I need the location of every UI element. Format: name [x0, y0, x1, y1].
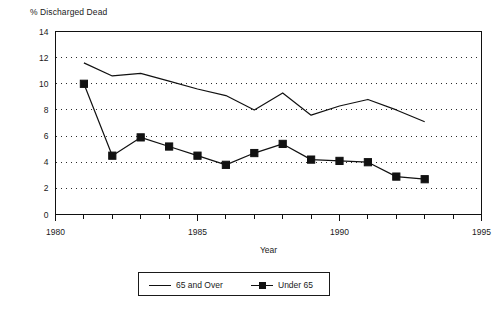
svg-text:0: 0: [44, 210, 49, 220]
svg-text:1990: 1990: [330, 227, 349, 237]
svg-text:1980: 1980: [46, 227, 65, 237]
gridlines: [56, 58, 482, 189]
plot-frame: [56, 32, 482, 215]
x-axis-ticks: [56, 215, 482, 221]
svg-text:12: 12: [39, 53, 49, 63]
svg-text:8: 8: [44, 105, 49, 115]
svg-text:1985: 1985: [188, 227, 207, 237]
legend-item-under-65: Under 65: [251, 273, 313, 297]
chart-legend: 65 and Over Under 65: [138, 272, 330, 296]
legend-item-65-and-over: 65 and Over: [149, 273, 223, 297]
svg-text:4: 4: [44, 157, 49, 167]
chart-container: % Discharged Dead 02468101214 1980198519…: [0, 0, 501, 312]
x-axis-tick-labels: 1980198519901995: [46, 227, 491, 237]
svg-text:10: 10: [39, 79, 49, 89]
x-axis-title: Year: [260, 245, 277, 255]
y-axis-tick-labels: 02468101214: [39, 27, 49, 220]
svg-text:14: 14: [39, 27, 49, 37]
svg-text:Year: Year: [260, 245, 277, 255]
plot-area: 02468101214 1980198519901995 Year: [0, 0, 501, 312]
legend-label: 65 and Over: [176, 280, 223, 290]
svg-text:2: 2: [44, 183, 49, 193]
data-series-layer: [80, 63, 428, 183]
svg-text:1995: 1995: [472, 227, 491, 237]
legend-label: Under 65: [278, 280, 313, 290]
legend-line-icon: [149, 280, 171, 290]
svg-text:6: 6: [44, 131, 49, 141]
legend-line-square-marker-icon: [251, 280, 273, 290]
